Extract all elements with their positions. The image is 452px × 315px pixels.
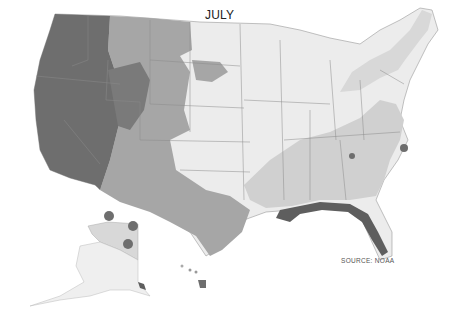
ga-highest-patch (349, 153, 355, 159)
sc-highest-patch (400, 144, 408, 152)
alaska-marker-3 (123, 239, 133, 249)
west-highest-region (34, 14, 120, 190)
alaska-marker-2 (128, 221, 138, 231)
map-title: JULY (205, 8, 234, 22)
source-credit: SOURCE: NOAA (341, 257, 394, 264)
hawaii (181, 265, 207, 289)
alaska-marker-1 (104, 211, 114, 221)
us-map (0, 0, 452, 315)
